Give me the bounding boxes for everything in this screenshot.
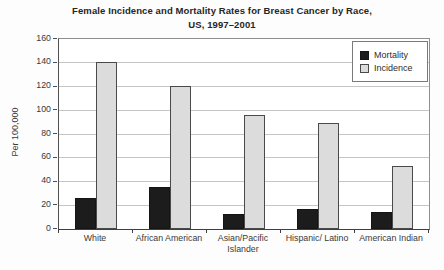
bar-incidence-4 [318, 123, 339, 229]
y-axis-tick-120 [53, 86, 57, 87]
y-tick-label-0: 0 [27, 224, 51, 233]
chart-figure: Female Incidence and Mortality Rates for… [0, 0, 444, 270]
y-axis-label: Per 100,000 [10, 77, 20, 187]
chart-title-line1: Female Incidence and Mortality Rates for… [0, 5, 444, 16]
legend-label-incidence: Incidence [374, 63, 413, 73]
y-axis-tick-60 [53, 157, 57, 158]
y-tick-label-120: 120 [27, 81, 51, 90]
x-category-label-1: White [57, 233, 133, 244]
x-category-label-2: African American [131, 233, 207, 244]
y-axis-tick-0 [53, 228, 57, 229]
bar-mortality-4 [297, 209, 318, 229]
y-tick-label-40: 40 [27, 176, 51, 185]
y-axis-tick-140 [53, 62, 57, 63]
bar-mortality-5 [371, 212, 392, 229]
bar-incidence-5 [392, 166, 413, 229]
y-axis-tick-160 [53, 38, 57, 39]
y-axis-tick-40 [53, 181, 57, 182]
incidence-swatch-icon [360, 64, 369, 73]
y-tick-label-80: 80 [27, 129, 51, 138]
x-category-label-4: Hispanic/ Latino [279, 233, 355, 244]
bar-incidence-1 [96, 62, 117, 229]
y-tick-label-160: 160 [27, 34, 51, 43]
y-tick-label-60: 60 [27, 152, 51, 161]
legend-item-incidence: Incidence [360, 63, 427, 73]
bar-mortality-3 [223, 214, 244, 229]
bar-mortality-1 [75, 198, 96, 229]
legend-label-mortality: Mortality [374, 50, 408, 60]
mortality-swatch-icon [360, 51, 369, 60]
y-axis-tick-20 [53, 204, 57, 205]
bar-incidence-2 [170, 86, 191, 229]
legend: Mortality Incidence [352, 41, 428, 82]
y-tick-label-20: 20 [27, 200, 51, 209]
bar-incidence-3 [244, 115, 265, 229]
legend-item-mortality: Mortality [360, 50, 427, 60]
y-axis-tick-80 [53, 133, 57, 134]
x-category-label-3: Asian/Pacific Islander [205, 233, 281, 255]
chart-title-line2: US, 1997–2001 [0, 19, 444, 30]
y-axis-tick-100 [53, 109, 57, 110]
y-tick-label-140: 140 [27, 57, 51, 66]
bar-mortality-2 [149, 187, 170, 229]
y-tick-label-100: 100 [27, 105, 51, 114]
x-category-label-5: American Indian [353, 233, 429, 244]
